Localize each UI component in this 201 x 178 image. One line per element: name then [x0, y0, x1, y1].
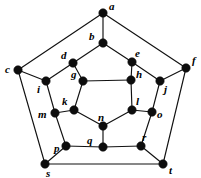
node-label-o: o [157, 109, 163, 120]
node-label-p: p [54, 143, 60, 154]
graph-edge-b-e [103, 43, 132, 62]
graph-node-c [14, 66, 22, 74]
node-label-s: s [46, 168, 50, 178]
node-label-q: q [87, 135, 93, 146]
graph-edge-d-i [46, 63, 73, 81]
graph-edge-c-i [18, 70, 46, 81]
graph-node-l [128, 106, 136, 114]
node-label-m: m [38, 109, 47, 120]
node-label-j: j [164, 84, 167, 95]
graph-edge-l-n [103, 110, 132, 126]
node-label-g: g [71, 69, 77, 80]
node-label-e: e [135, 48, 140, 59]
node-label-r: r [142, 132, 146, 143]
node-label-k: k [62, 96, 68, 107]
graph-edge-h-l [131, 80, 132, 110]
graph-edge-g-h [83, 80, 131, 81]
node-label-b: b [89, 31, 95, 42]
graph-node-f [182, 64, 190, 72]
graph-node-d [69, 59, 77, 67]
graph-node-o [148, 108, 156, 116]
graph-edge-i-m [46, 81, 55, 113]
graph-edge-p-q [66, 146, 103, 147]
graph-node-t [159, 160, 167, 168]
node-label-t: t [169, 165, 172, 176]
node-label-l: l [136, 96, 139, 107]
graph-node-g [79, 77, 87, 85]
node-label-c: c [5, 64, 10, 75]
graph-node-p [62, 142, 70, 150]
graph-node-a [99, 9, 107, 17]
node-label-f: f [192, 55, 196, 66]
node-label-n: n [98, 112, 104, 123]
node-label-d: d [61, 50, 67, 61]
node-label-i: i [37, 84, 40, 95]
graph-node-b [99, 39, 107, 47]
graph-node-i [42, 77, 50, 85]
graph-edge-a-f [103, 13, 186, 68]
node-label-h: h [136, 69, 142, 80]
node-label-a: a [109, 1, 115, 12]
graph-node-n [99, 122, 107, 130]
edge-layer [18, 13, 186, 164]
graph-node-m [51, 109, 59, 117]
graph-node-k [70, 106, 78, 114]
graph-diagram: abcdefghijklmnopqrst [0, 0, 201, 178]
graph-node-h [127, 76, 135, 84]
graph-edge-g-k [74, 81, 83, 110]
graph-node-j [156, 77, 164, 85]
graph-node-r [137, 142, 145, 150]
graph-node-q [99, 143, 107, 151]
graph-edge-q-r [103, 146, 141, 147]
graph-node-e [128, 58, 136, 66]
graph-canvas [0, 0, 201, 178]
graph-edge-b-d [73, 43, 103, 63]
